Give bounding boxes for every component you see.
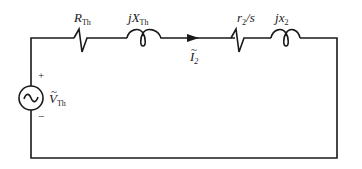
r2s-label: r2/s — [237, 10, 255, 27]
resistor-r2s-icon — [231, 29, 271, 52]
xth-label: jXTh — [126, 10, 148, 27]
inductor-xth-icon — [127, 30, 235, 46]
wire-left-bottom — [31, 38, 337, 158]
circuit-diagram: + − ~ VTh RTh jXTh ~ I2 r2/s jx2 — [0, 0, 362, 169]
resistor-rth-icon — [74, 29, 127, 52]
rth-label: RTh — [73, 10, 91, 27]
plus-sign: + — [38, 69, 44, 81]
vth-label: VTh — [49, 91, 66, 108]
inductor-x2-icon — [271, 30, 300, 46]
sine-wave-icon — [24, 94, 38, 101]
minus-sign: − — [38, 110, 44, 122]
current-arrow-icon — [187, 34, 199, 42]
x2-label: jx2 — [273, 10, 288, 27]
